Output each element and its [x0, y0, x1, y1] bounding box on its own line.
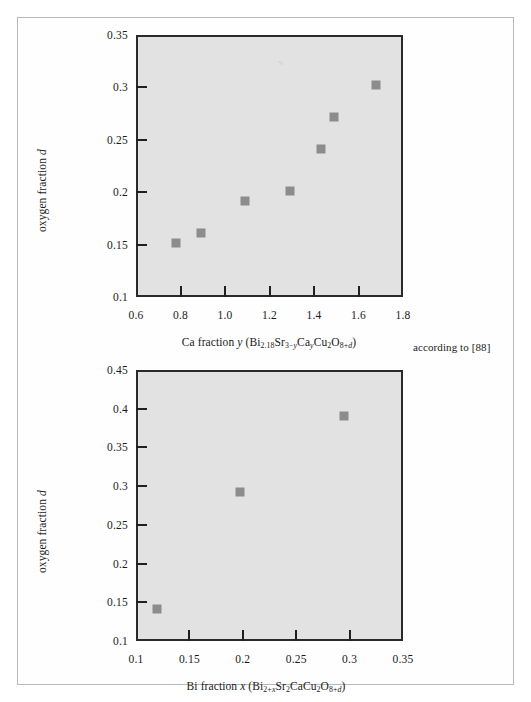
data-point: [372, 81, 381, 90]
source-reference-note: according to [88]: [413, 341, 490, 353]
data-point: [235, 488, 244, 497]
x-axis-tick-label: 0.6: [129, 309, 144, 321]
x-axis-tick-label: 1.4: [307, 309, 322, 321]
data-point: [316, 145, 325, 154]
data-point: [153, 605, 162, 614]
x-axis-tick: [349, 630, 351, 641]
x-axis-tick-label: 0.2: [235, 653, 250, 665]
chart-bi-fraction: 0.10.150.20.250.30.35 0.10.150.20.250.30…: [0, 360, 531, 702]
y-axis-tick-label: 0.25: [84, 134, 128, 146]
y-axis-tick: [136, 446, 147, 448]
y-axis-tick-label: 0.45: [84, 364, 128, 376]
y-axis-tick: [136, 408, 147, 410]
x-axis-tick: [224, 286, 226, 297]
x-axis-tick-label: 1.6: [351, 309, 366, 321]
y-axis-title-bi-fraction: oxygen fraction d: [36, 490, 48, 573]
x-axis-tick-label: 0.3: [342, 653, 357, 665]
x-axis-tick-label: 0.8: [173, 309, 188, 321]
y-axis-tick: [136, 191, 147, 193]
x-axis-title-ca-fraction: Ca fraction y (Bi2.18Sr3−yCayCu2O8+d): [182, 336, 356, 350]
y-axis-tick-label: 0.3: [84, 81, 128, 93]
data-point: [340, 411, 349, 420]
y-axis-tick: [136, 524, 147, 526]
y-axis-tick-label: 0.35: [84, 441, 128, 453]
y-axis-tick: [136, 86, 147, 88]
y-axis-tick: [136, 601, 147, 603]
y-axis-tick: [136, 485, 147, 487]
x-axis-tick: [242, 630, 244, 641]
y-axis-tick-label: 0.1: [84, 635, 128, 647]
scan-artifact: ·: [276, 131, 278, 139]
x-axis-title-bi-fraction: Bi fraction x (Bi2+xSr2CaCu2O8+d): [187, 680, 346, 694]
y-axis-tick-label: 0.3: [84, 480, 128, 492]
data-point: [241, 196, 250, 205]
y-axis-tick-label: 0.2: [84, 186, 128, 198]
chart-ca-fraction: ∿ · 0.60.81.01.21.41.61.8 0.10.150.20.25…: [0, 0, 531, 360]
y-axis-tick: [136, 139, 147, 141]
y-axis-tick-label: 0.15: [84, 596, 128, 608]
x-axis-tick: [188, 630, 190, 641]
y-axis-tick-label: 0.35: [84, 29, 128, 41]
x-axis-tick: [295, 630, 297, 641]
plot-area-bi-fraction: [136, 370, 403, 641]
y-axis-tick-label: 0.1: [84, 291, 128, 303]
x-axis-tick-label: 1.0: [218, 309, 233, 321]
x-axis-tick-label: 0.25: [286, 653, 307, 665]
data-point: [172, 238, 181, 247]
y-axis-tick-label: 0.25: [84, 519, 128, 531]
data-point: [196, 229, 205, 238]
x-axis-tick: [358, 286, 360, 297]
data-point: [285, 187, 294, 196]
x-axis-tick-label: 0.15: [179, 653, 200, 665]
y-axis-tick: [136, 244, 147, 246]
y-axis-tick: [136, 563, 147, 565]
x-axis-tick: [313, 286, 315, 297]
x-axis-tick: [269, 286, 271, 297]
x-axis-tick-label: 1.2: [262, 309, 277, 321]
y-axis-title-ca-fraction: oxygen fraction d: [36, 149, 48, 232]
x-axis-tick-label: 0.35: [393, 653, 414, 665]
figure-page: ∿ · 0.60.81.01.21.41.61.8 0.10.150.20.25…: [0, 0, 531, 702]
x-axis-tick-label: 1.8: [396, 309, 411, 321]
y-axis-tick-label: 0.15: [84, 239, 128, 251]
x-axis-tick: [180, 286, 182, 297]
y-axis-tick-label: 0.2: [84, 558, 128, 570]
y-axis-tick-label: 0.4: [84, 403, 128, 415]
scan-artifact: ∿: [278, 59, 284, 67]
x-axis-tick-label: 0.1: [129, 653, 144, 665]
plot-area-ca-fraction: ∿ ·: [136, 35, 403, 297]
data-point: [330, 112, 339, 121]
